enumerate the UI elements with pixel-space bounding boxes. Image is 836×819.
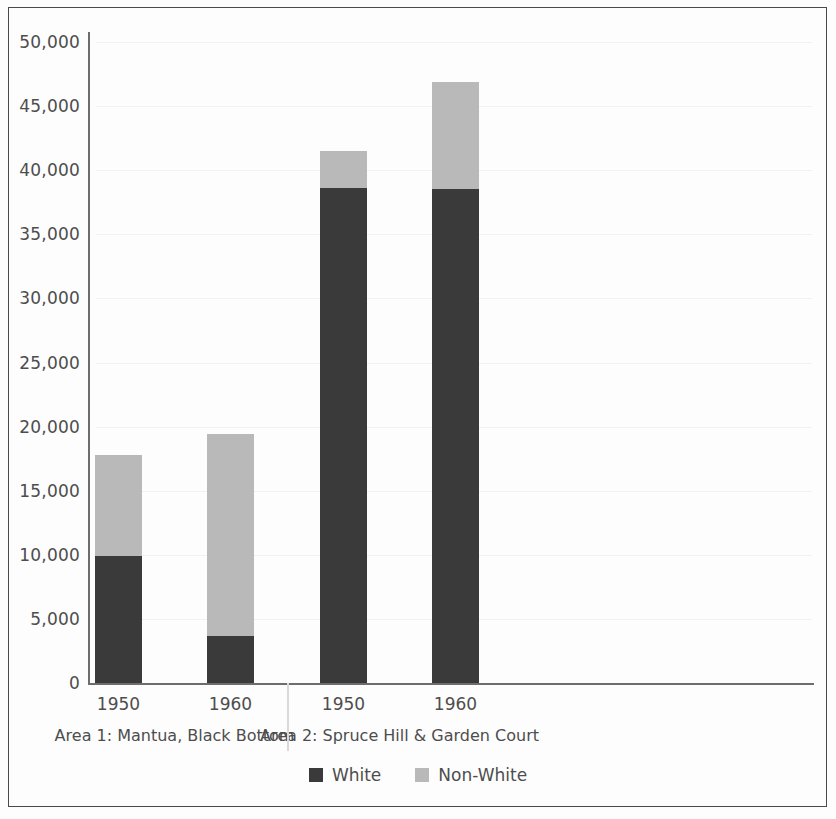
legend-item: White — [309, 765, 381, 785]
y-axis-tick-label: 0 — [0, 673, 80, 693]
bar-segment-non-white — [432, 82, 479, 190]
bar-segment-white — [432, 189, 479, 683]
chart-legend: WhiteNon-White — [0, 765, 836, 785]
bar-segment-non-white — [95, 455, 142, 556]
legend-label: White — [332, 765, 381, 785]
x-axis-tick-label: 1950 — [54, 694, 184, 714]
x-axis-line — [88, 683, 814, 685]
y-axis-line — [88, 32, 90, 684]
y-axis-tick-label: 25,000 — [0, 353, 80, 373]
y-axis-tick-label: 5,000 — [0, 609, 80, 629]
stacked-bar — [207, 434, 254, 683]
x-axis-tick-label: 1960 — [166, 694, 296, 714]
y-axis-tick-label: 10,000 — [0, 545, 80, 565]
y-axis-tick-label: 50,000 — [0, 32, 80, 52]
legend-item: Non-White — [415, 765, 527, 785]
legend-label: Non-White — [438, 765, 527, 785]
stacked-bar — [432, 82, 479, 683]
bar-segment-white — [95, 556, 142, 683]
bar-segment-non-white — [320, 151, 367, 188]
legend-swatch-icon — [309, 768, 323, 782]
group-separator — [287, 683, 289, 751]
y-axis-tick-label: 45,000 — [0, 96, 80, 116]
y-axis-tick-label: 30,000 — [0, 288, 80, 308]
stacked-bar — [320, 151, 367, 683]
x-axis-tick-label: 1960 — [391, 694, 521, 714]
bar-segment-non-white — [207, 434, 254, 635]
chart-plot-area: 50,00045,00040,00035,00030,00025,00020,0… — [0, 0, 836, 819]
bar-segment-white — [320, 188, 367, 683]
gridline — [96, 42, 812, 43]
legend-swatch-icon — [415, 768, 429, 782]
bar-segment-white — [207, 636, 254, 683]
y-axis-tick-label: 15,000 — [0, 481, 80, 501]
x-axis-tick-label: 1950 — [279, 694, 409, 714]
chart-figure: 50,00045,00040,00035,00030,00025,00020,0… — [0, 0, 836, 819]
x-axis-group-label: Area 2: Spruce Hill & Garden Court — [200, 726, 600, 745]
y-axis-tick-label: 40,000 — [0, 160, 80, 180]
stacked-bar — [95, 455, 142, 683]
y-axis-tick-label: 35,000 — [0, 224, 80, 244]
y-axis-tick-label: 20,000 — [0, 417, 80, 437]
